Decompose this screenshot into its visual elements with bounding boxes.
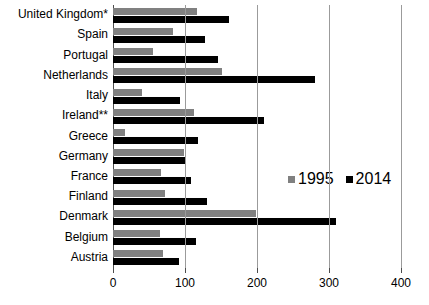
category-label: Greece bbox=[5, 130, 113, 143]
chart-legend: 19952014 bbox=[288, 170, 391, 188]
x-tick-300 bbox=[329, 268, 330, 273]
x-tick-label: 400 bbox=[381, 276, 421, 290]
bar-2014-austria bbox=[113, 258, 179, 265]
legend-item-2014: 2014 bbox=[346, 170, 392, 188]
bar-2014-netherlands bbox=[113, 76, 315, 83]
category-label: Ireland** bbox=[5, 109, 113, 122]
bar-2014-spain bbox=[113, 36, 205, 43]
bar-1995-netherlands bbox=[113, 68, 222, 75]
bar-2014-denmark bbox=[113, 218, 336, 225]
bar-1995-belgium bbox=[113, 230, 160, 237]
bar-1995-greece bbox=[113, 129, 125, 136]
bar-1995-france bbox=[113, 169, 161, 176]
legend-item-1995: 1995 bbox=[288, 170, 334, 188]
bar-1995-finland bbox=[113, 190, 165, 197]
bar-1995-austria bbox=[113, 250, 163, 257]
gridline-400 bbox=[401, 5, 402, 268]
bar-2014-finland bbox=[113, 198, 207, 205]
legend-swatch-icon bbox=[346, 176, 353, 183]
bar-2014-unitedkingdom bbox=[113, 16, 229, 23]
bar-1995-ireland bbox=[113, 109, 194, 116]
bar-2014-belgium bbox=[113, 238, 196, 245]
bar-chart: United Kingdom*SpainPortugalNetherlandsI… bbox=[0, 0, 429, 305]
gridline-300 bbox=[329, 5, 330, 268]
bar-2014-italy bbox=[113, 97, 180, 104]
x-tick-label: 200 bbox=[237, 276, 277, 290]
bar-1995-spain bbox=[113, 28, 173, 35]
category-label: Portugal bbox=[5, 49, 113, 62]
category-axis-labels: United Kingdom*SpainPortugalNetherlandsI… bbox=[0, 5, 113, 268]
x-tick-label: 0 bbox=[93, 276, 133, 290]
bar-2014-france bbox=[113, 177, 191, 184]
x-tick-0 bbox=[113, 268, 114, 273]
category-label: Spain bbox=[5, 28, 113, 41]
category-label: Belgium bbox=[5, 231, 113, 244]
x-tick-200 bbox=[257, 268, 258, 273]
x-tick-label: 300 bbox=[309, 276, 349, 290]
bar-1995-italy bbox=[113, 89, 142, 96]
bar-2014-portugal bbox=[113, 56, 218, 63]
category-label: Finland bbox=[5, 190, 113, 203]
x-tick-100 bbox=[185, 268, 186, 273]
gridline-100 bbox=[185, 5, 186, 268]
bar-2014-germany bbox=[113, 157, 186, 164]
category-label: Denmark bbox=[5, 210, 113, 223]
category-label: Italy bbox=[5, 89, 113, 102]
x-tick-label: 100 bbox=[165, 276, 205, 290]
category-label: United Kingdom* bbox=[5, 8, 113, 21]
x-tick-400 bbox=[401, 268, 402, 273]
legend-swatch-icon bbox=[288, 176, 295, 183]
category-label: Germany bbox=[5, 150, 113, 163]
category-label: Austria bbox=[5, 251, 113, 264]
category-label: Netherlands bbox=[5, 69, 113, 82]
category-label: France bbox=[5, 170, 113, 183]
bar-2014-ireland bbox=[113, 117, 264, 124]
gridline-200 bbox=[257, 5, 258, 268]
legend-label: 2014 bbox=[356, 170, 392, 188]
bar-1995-portugal bbox=[113, 48, 153, 55]
bar-1995-germany bbox=[113, 149, 184, 156]
